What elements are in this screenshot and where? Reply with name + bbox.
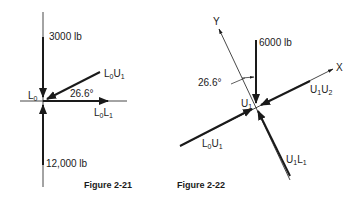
member-label-u1u2: U1U2 xyxy=(310,84,332,96)
load-label-3000: 3000 lb xyxy=(49,31,82,42)
figure-caption: Figure 2-21 xyxy=(84,180,132,190)
y-axis-label: Y xyxy=(213,16,220,27)
load-label-6000: 6000 lb xyxy=(259,37,292,48)
figure-2-21: 3000 lb 12,000 lb L0 L0U1 L0L1 26.6° Fig… xyxy=(20,12,132,190)
figure-2-22: Y X 6000 lb 26.6° U1 U1U2 L0U1 U1L1 Figu… xyxy=(177,16,343,190)
free-body-diagrams: 3000 lb 12,000 lb L0 L0U1 L0L1 26.6° Fig… xyxy=(0,0,355,201)
angle-label: 26.6° xyxy=(70,88,93,99)
joint-label-u1: U1 xyxy=(241,98,252,110)
member-label-l0u1: L0U1 xyxy=(104,68,125,80)
y-axis xyxy=(219,29,290,180)
member-arrow-u1l1 xyxy=(258,111,290,176)
member-label-u1l1: U1L1 xyxy=(286,154,307,166)
angle-leader-line xyxy=(231,78,245,84)
member-arrow-u1u2 xyxy=(261,81,310,105)
x-axis-label: X xyxy=(336,62,343,73)
angle-label: 26.6° xyxy=(198,77,221,88)
joint-label-l0: L0 xyxy=(28,90,38,102)
reaction-label-12000: 12,000 lb xyxy=(46,158,88,169)
figure-caption: Figure 2-22 xyxy=(177,180,225,190)
member-label-l0l1: L0L1 xyxy=(94,107,113,119)
member-label-l0u1: L0U1 xyxy=(202,138,223,150)
angle-dimension-line xyxy=(242,77,254,78)
